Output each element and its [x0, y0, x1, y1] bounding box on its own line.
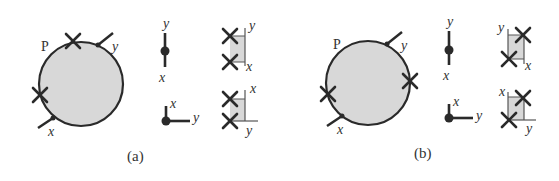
prop-top-label: y — [445, 14, 454, 29]
panel-a: P y x y x x y — [33, 16, 258, 165]
prop-bottom-label: x — [158, 70, 166, 85]
corner-right-label: y — [191, 110, 200, 125]
figure: P y x y x x y — [0, 0, 559, 181]
prop-top-label: y — [161, 16, 170, 31]
corner-right-label: y — [474, 108, 483, 123]
corner-up-label: x — [169, 96, 177, 111]
box-top-label: y — [496, 20, 505, 35]
prop-bottom-label: x — [442, 68, 450, 83]
blob-label: P — [41, 39, 49, 54]
vertex-dot — [445, 114, 454, 123]
vertex-dot — [51, 116, 56, 121]
leg-y-label: y — [399, 38, 408, 53]
vertex-dot — [96, 43, 101, 48]
leg-y-label: y — [110, 39, 119, 54]
box-top-label: x — [498, 84, 506, 99]
corner-up-label: x — [452, 94, 460, 109]
box-top-label: y — [247, 18, 256, 33]
blob-circle — [39, 42, 123, 126]
caption-a: (a) — [127, 148, 144, 165]
box-top-label: x — [249, 81, 257, 96]
panel-b: P y x y x x y — [321, 14, 536, 162]
vertex-dot — [161, 47, 170, 56]
box-bottom-label: x — [245, 59, 253, 74]
vertex-dot — [385, 42, 390, 47]
leg-x-label: x — [336, 122, 344, 137]
blob-circle — [326, 41, 410, 125]
leg-y-line — [387, 32, 402, 44]
box-fill — [508, 35, 524, 59]
box-bottom-label: x — [524, 58, 532, 73]
box-bottom-label: y — [524, 121, 533, 136]
leg-x-label: x — [47, 124, 55, 139]
leg-y-line — [98, 33, 113, 45]
blob-label: P — [333, 37, 341, 52]
vertex-dot — [340, 114, 345, 119]
box-bottom-label: y — [244, 123, 253, 138]
caption-b: (b) — [414, 145, 432, 162]
vertex-dot — [162, 117, 171, 126]
vertex-dot — [445, 46, 454, 55]
